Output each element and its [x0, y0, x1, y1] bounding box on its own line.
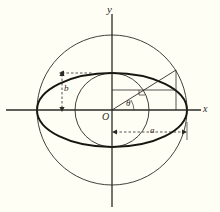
origin-label: O: [102, 112, 109, 122]
semi-major-label: a: [150, 126, 155, 135]
theta-angle-label: θ: [126, 99, 130, 108]
semi-minor-label: b: [64, 84, 69, 93]
figure-canvas: [0, 0, 220, 212]
ellipse-construction-figure: y x O b a θ: [0, 0, 220, 212]
x-axis-label: x: [203, 104, 207, 114]
a-dimension-arrow-left: [112, 129, 117, 134]
theta-arc: [131, 100, 134, 110]
y-axis-label: y: [107, 4, 112, 15]
